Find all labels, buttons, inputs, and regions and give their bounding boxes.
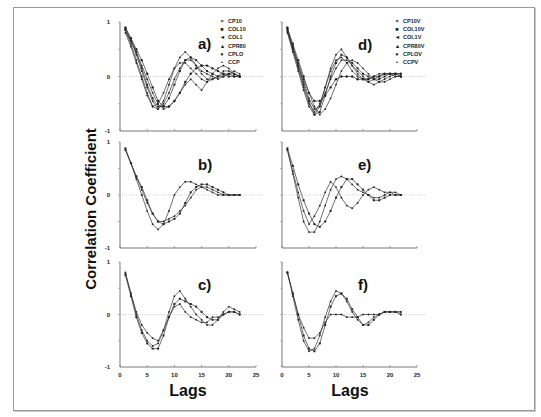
legend-marker: ● — [220, 51, 223, 57]
legend-marker: ◂ — [220, 34, 225, 40]
legend-entry: CP10V — [403, 18, 421, 24]
legend-marker: × — [220, 18, 223, 24]
x-tick-label: 25 — [253, 372, 260, 378]
series-line — [287, 148, 400, 226]
x-tick-label: 20 — [387, 372, 394, 378]
y-axis-title: Correlation Coefficient — [82, 128, 99, 290]
legend-marker: ◂ — [395, 34, 400, 40]
y-tick-label: 1 — [107, 139, 111, 145]
panel-c: 10-10510152025c) — [105, 259, 264, 378]
legend-marker: • — [396, 59, 398, 65]
legend-entry: CPLO — [228, 51, 244, 57]
legend-entry: CCP — [228, 59, 240, 65]
legend-entry: COL1 — [228, 34, 243, 40]
legend-marker: ■ — [220, 26, 223, 32]
legend: ×CP10V■COL10V◂COL1V▴CPR80V●CPLOV•CCPV — [395, 18, 425, 65]
legend-entry: CPLOV — [403, 51, 422, 57]
y-tick-label: 1 — [107, 19, 111, 25]
legend-marker: ● — [395, 51, 398, 57]
series-line — [287, 273, 400, 339]
series-line — [287, 30, 400, 109]
correlation-figure: 10-1a)10-1b)10-10510152025c)d)e)05101520… — [0, 0, 541, 417]
y-tick-label: 0 — [107, 192, 111, 198]
legend: ×CP10■COL10◂COL1▴CPR80●CPLO•CCP — [220, 18, 246, 65]
y-tick-label: -1 — [105, 364, 111, 370]
panel-label: c) — [198, 276, 211, 293]
legend-marker: ▴ — [395, 43, 400, 49]
x-tick-label: 0 — [118, 372, 122, 378]
legend-entry: CPR80 — [228, 43, 246, 49]
x-tick-label: 0 — [280, 372, 284, 378]
panel-label: f) — [358, 276, 368, 293]
legend-entry: CPR80V — [403, 43, 425, 49]
x-tick-label: 10 — [171, 372, 178, 378]
x-axis-title-right: Lags — [331, 382, 368, 399]
x-tick-label: 10 — [333, 372, 340, 378]
x-tick-label: 15 — [360, 372, 367, 378]
legend-entry: COL1V — [403, 34, 422, 40]
panel-label: d) — [358, 36, 372, 53]
x-tick-label: 5 — [307, 372, 311, 378]
legend-marker: × — [395, 18, 398, 24]
panel-b: 10-1b) — [105, 139, 264, 251]
legend-entry: COL10V — [403, 26, 425, 32]
y-tick-label: 1 — [107, 259, 111, 265]
series-line — [125, 150, 239, 222]
series-line — [287, 150, 400, 232]
y-tick-label: 0 — [107, 312, 111, 318]
legend-entry: CP10 — [228, 18, 242, 24]
x-tick-label: 5 — [146, 372, 150, 378]
legend-marker: ▴ — [220, 43, 225, 49]
x-axis-title-left: Lags — [169, 382, 206, 399]
panel-f: 0510152025f) — [280, 262, 425, 378]
legend-entry: COL10 — [228, 26, 246, 32]
x-tick-label: 25 — [414, 372, 421, 378]
x-tick-label: 20 — [225, 372, 232, 378]
y-tick-label: 0 — [107, 74, 111, 80]
y-tick-label: -1 — [105, 245, 111, 251]
series-line — [287, 150, 400, 224]
series-line — [287, 30, 400, 112]
legend-marker: • — [221, 59, 223, 65]
panel-label: a) — [198, 35, 211, 52]
legend-entry: CCPV — [403, 59, 419, 65]
series-line — [287, 28, 400, 115]
x-tick-label: 15 — [198, 372, 205, 378]
panel-label: e) — [358, 156, 371, 173]
y-tick-label: -1 — [105, 128, 111, 134]
panel-label: b) — [198, 156, 212, 173]
series-line — [125, 274, 239, 341]
panel-e: e) — [280, 142, 425, 248]
legend-marker: ■ — [395, 26, 398, 32]
